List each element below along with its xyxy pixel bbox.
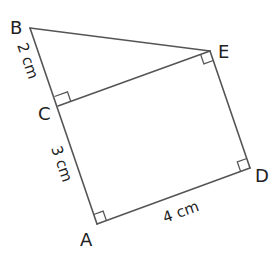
segment-b-a — [30, 28, 97, 224]
vertex-labels: B C A D E — [10, 17, 269, 250]
measurement-ad: 4 cm — [160, 197, 201, 227]
segment-d-e — [210, 51, 250, 168]
geometry-diagram: B C A D E 2 cm 3 cm 4 cm — [0, 0, 277, 253]
right-angle-marker-c — [55, 92, 71, 102]
segment-e-b — [30, 28, 210, 51]
right-angle-markers — [55, 54, 247, 220]
vertex-label-a: A — [80, 229, 93, 250]
vertex-label-c: C — [38, 103, 51, 124]
measurement-labels: 2 cm 3 cm 4 cm — [13, 40, 201, 226]
vertex-label-e: E — [218, 41, 229, 62]
vertex-label-d: D — [255, 165, 269, 186]
segments — [30, 28, 250, 224]
measurement-bc: 2 cm — [13, 40, 42, 81]
segment-c-e — [58, 51, 210, 106]
vertex-label-b: B — [10, 17, 22, 38]
